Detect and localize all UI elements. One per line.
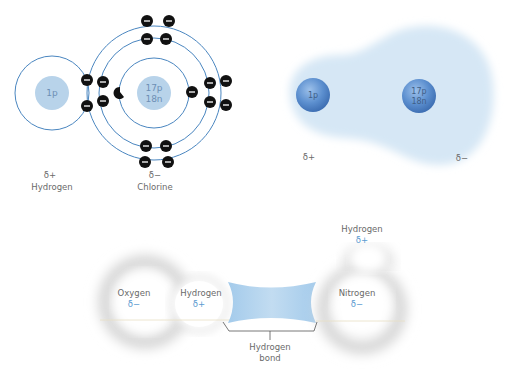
chlorine-charge: δ− (149, 170, 161, 180)
nitrogen-charge: δ− (351, 299, 363, 309)
bond-label-line1: Hydrogen (249, 342, 290, 352)
hydrogen-left-charge: δ+ (193, 299, 205, 309)
bond-bracket (223, 322, 317, 340)
chlorine-nucleus-sphere (402, 79, 436, 113)
bond-label-line2: bond (259, 353, 280, 363)
chlorine-nucleus-n: 18n (145, 94, 162, 104)
hydrogen-charge: δ+ (44, 170, 56, 180)
electron-cloud-diagram: 1p 17p 18n δ+ δ− (290, 26, 494, 165)
oxygen-charge: δ− (128, 299, 140, 309)
hydrogen-left-label: Hydrogen (180, 288, 221, 298)
hydrogen-charge: δ+ (303, 152, 315, 162)
hydrogen-top-charge: δ+ (356, 235, 368, 245)
chlorine-charge: δ− (456, 153, 468, 163)
chlorine-nucleus-p: 17p (145, 83, 162, 93)
hydrogen-nucleus-label: 1p (46, 88, 58, 98)
hydrogen-top-label: Hydrogen (341, 224, 382, 234)
hydrogen-label: Hydrogen (31, 182, 72, 192)
hydrogen-bond-diagram: Oxygen δ− Hydrogen δ+ Nitrogen δ− Hydrog… (93, 224, 412, 363)
chlorine-nucleus (137, 76, 171, 110)
chlorine-label: Chlorine (137, 182, 172, 192)
hydrogen-bond-shape (228, 282, 316, 323)
nitrogen-label: Nitrogen (339, 288, 376, 298)
bohr-diagram: 1p 17p 18n (15, 15, 232, 192)
oxygen-label: Oxygen (118, 288, 151, 298)
chlorine-nucleus-p: 17p (411, 87, 426, 96)
hydrogen-nucleus-label: 1p (308, 91, 318, 100)
chlorine-nucleus-n: 18n (411, 97, 426, 106)
